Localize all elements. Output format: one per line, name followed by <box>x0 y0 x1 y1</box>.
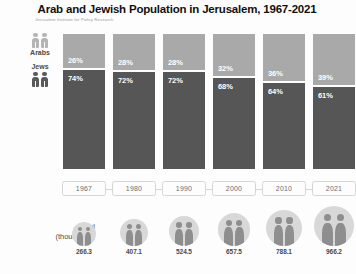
bar-segment-arabs: 28% <box>162 33 206 71</box>
total-value: 407.1 <box>112 248 156 255</box>
year-label-2000[interactable]: 2000 <box>212 181 256 196</box>
bar-label-jews: 61% <box>318 91 333 100</box>
total-value: 788.1 <box>262 248 306 255</box>
bar-column: 28%72% <box>162 33 206 170</box>
total-value: 966.2 <box>312 248 356 255</box>
bar-segment-arabs: 36% <box>262 33 306 82</box>
year-label-2010[interactable]: 2010 <box>262 181 306 196</box>
people-in-circle-icon <box>72 222 96 246</box>
bar-label-jews: 72% <box>168 76 183 85</box>
total-value: 266.3 <box>62 248 106 255</box>
bar-column: 36%64% <box>262 33 306 170</box>
bar-label-arabs: 36% <box>268 69 283 78</box>
year-label-1980[interactable]: 1980 <box>112 181 156 196</box>
bar-label-jews: 64% <box>268 87 283 96</box>
total-value: 657.5 <box>212 248 256 255</box>
bar-label-jews: 72% <box>118 76 133 85</box>
year-axis: 196719801990200020102021 <box>0 181 354 198</box>
bar-label-arabs: 28% <box>168 58 183 67</box>
people-in-circle-icon <box>266 210 302 246</box>
year-label-1990[interactable]: 1990 <box>162 181 206 196</box>
bar-segment-jews: 68% <box>212 77 256 170</box>
people-in-circle-icon <box>218 213 251 246</box>
bar-column: 28%72% <box>112 33 156 170</box>
bar-label-arabs: 28% <box>118 58 133 67</box>
year-label-2021[interactable]: 2021 <box>312 181 356 196</box>
people-in-circle-icon <box>120 219 147 246</box>
bar-segment-jews: 72% <box>112 71 156 170</box>
total-value: 524.5 <box>162 248 206 255</box>
people-in-circle-icon <box>314 206 354 246</box>
bar-segment-jews: 74% <box>62 69 106 170</box>
bar-segment-arabs: 28% <box>112 33 156 71</box>
bar-segment-arabs: 32% <box>212 33 256 77</box>
bar-segment-jews: 64% <box>262 82 306 170</box>
bar-segment-arabs: 39% <box>312 33 356 86</box>
bar-label-jews: 68% <box>218 82 233 91</box>
bar-label-arabs: 26% <box>68 56 83 65</box>
year-label-1967[interactable]: 1967 <box>62 181 106 196</box>
people-in-circle-icon <box>169 216 199 246</box>
bar-segment-jews: 72% <box>162 71 206 170</box>
bar-label-jews: 74% <box>68 74 83 83</box>
bar-column: 32%68% <box>212 33 256 170</box>
bar-column: 26%74% <box>62 33 106 170</box>
bar-label-arabs: 39% <box>318 73 333 82</box>
bar-segment-arabs: 26% <box>62 33 106 69</box>
bar-label-arabs: 32% <box>218 64 233 73</box>
bar-segment-jews: 61% <box>312 86 356 170</box>
bar-column: 39%61% <box>312 33 356 170</box>
